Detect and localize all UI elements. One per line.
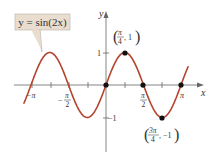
callout-label: y = sin(2x) [18,16,67,29]
point-max-label: ( π 4 , 1 ) [113,28,140,46]
point-min [159,115,164,120]
point-min-label: ( 3π 4 , −1 ) [144,126,179,144]
svg-text:2: 2 [66,100,70,109]
svg-text:π: π [141,91,145,100]
svg-text:4: 4 [118,37,122,46]
point-origin [103,82,108,87]
point-pi [178,82,183,87]
x-axis-label: x [200,87,206,98]
svg-text:): ) [135,28,140,46]
y-tick-1: 1 [97,49,101,58]
svg-text:, −1: , −1 [159,131,172,140]
svg-text:): ) [174,126,179,144]
svg-text:π: π [118,28,122,37]
point-max [122,50,127,55]
y-axis-arrow-icon [104,11,109,18]
svg-text:π: π [65,91,69,100]
x-tick-pi: π [180,91,185,100]
svg-text:−: − [58,96,63,105]
y-axis-label: y [98,8,104,19]
x-tick-neg-half-pi: − π 2 [58,91,71,109]
function-callout: y = sin(2x) [15,14,70,52]
point-half-pi [140,82,145,87]
y-tick-neg1: −1 [108,114,117,123]
svg-text:4: 4 [151,135,155,144]
svg-text:3π: 3π [148,126,157,135]
sine-graph: y = sin(2x) y x 1 −1 −π − π 2 π 2 π ( π … [0,0,218,159]
svg-text:2: 2 [142,100,146,109]
x-tick-neg-pi: −π [26,91,36,100]
svg-text:, 1: , 1 [124,33,132,42]
